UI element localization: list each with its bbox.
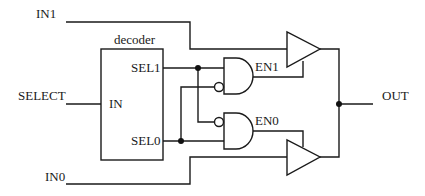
in1-wire — [66, 22, 287, 49]
junction-dot — [336, 101, 342, 107]
junction-dot — [195, 65, 201, 71]
in0-wire — [66, 157, 287, 184]
select-label: SELECT — [18, 88, 66, 103]
out-net — [320, 49, 373, 157]
en1-label: EN1 — [255, 59, 279, 74]
decoder-port-sel1: SEL1 — [131, 60, 161, 75]
in1-label: IN1 — [36, 6, 56, 21]
inverter-bubble — [215, 118, 224, 127]
schematic-canvas: IN1 SELECT IN0 decoder IN SEL1 SEL0 EN1 … — [0, 0, 425, 196]
decoder-label: decoder — [114, 32, 156, 47]
out-label: OUT — [382, 88, 409, 103]
decoder-port-in: IN — [109, 96, 123, 111]
sel1-net — [163, 65, 224, 122]
decoder-port-sel0: SEL0 — [131, 133, 161, 148]
junction-dot — [178, 138, 184, 144]
in0-label: IN0 — [45, 169, 65, 184]
circuit-diagram: IN1 SELECT IN0 decoder IN SEL1 SEL0 EN1 … — [0, 0, 425, 196]
en0-label: EN0 — [255, 113, 279, 128]
sel0-net — [163, 87, 224, 144]
inverter-bubble — [215, 83, 224, 92]
